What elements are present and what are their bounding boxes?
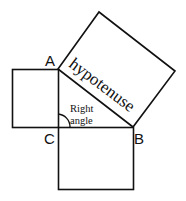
angle-label-angle: angle [70,115,93,126]
vertex-label-b: B [134,130,144,147]
right-angle-arc [58,114,70,127]
vertex-label-c: C [44,130,55,147]
square-side-cb [59,128,134,190]
angle-label-right: Right [70,103,93,114]
pythagoras-diagram: A C B hypotenuse Right angle [0,0,186,201]
vertex-label-a: A [45,52,55,69]
square-side-ac [13,70,59,128]
